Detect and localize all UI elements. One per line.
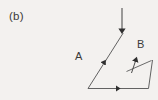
vector-label-a: A xyxy=(75,51,82,62)
figure-panel-b: (b) A B xyxy=(0,0,158,100)
component-arrow xyxy=(132,60,137,74)
side-a-line xyxy=(88,33,123,89)
tick-line xyxy=(127,61,152,72)
side-b-line xyxy=(149,60,153,89)
vector-label-b: B xyxy=(137,39,144,50)
panel-label: (b) xyxy=(9,11,24,23)
